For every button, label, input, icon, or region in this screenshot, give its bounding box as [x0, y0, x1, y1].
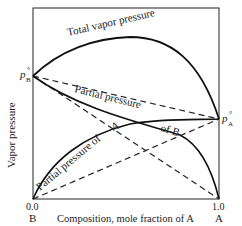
pa-label-main: p: [221, 112, 228, 124]
partial-pressure-a-label-1: Partial pressure of: [34, 132, 103, 193]
x-tick-1-sub: A: [215, 212, 223, 224]
pa-label-sub: A: [228, 120, 233, 128]
x-tick-0: 0.0: [26, 201, 39, 212]
partial-pressure-b-label-1: Partial pressure: [74, 82, 143, 110]
x-tick-1: 1.0: [212, 201, 225, 212]
total-vapor-pressure-label: Total vapor pressure: [66, 6, 156, 38]
y-axis-label: Vapor pressure: [5, 102, 17, 168]
partial-pressure-b-label-2: of B: [159, 121, 181, 138]
pb-label-sub: B: [26, 76, 31, 84]
pb-label-sup: °: [27, 66, 30, 75]
partial-pressure-a-label-2: A: [109, 119, 121, 133]
x-tick-0-sub: B: [29, 212, 36, 224]
vapor-pressure-diagram: Total vapor pressure Partial pressure of…: [0, 0, 242, 226]
pa-label-sup: °: [229, 110, 232, 119]
x-axis-label: Composition, mole fraction of A: [57, 213, 194, 224]
pb-label-main: p: [19, 68, 26, 80]
